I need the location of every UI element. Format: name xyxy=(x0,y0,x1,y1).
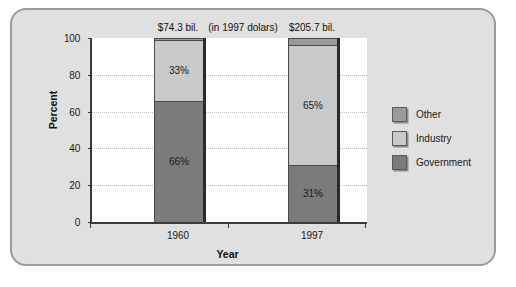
x-axis-title: Year xyxy=(90,248,365,260)
chart-figure-frame: Percent 020406080100 $74.3 bil. (in 1997… xyxy=(10,8,496,266)
y-tick-label: 0 xyxy=(52,217,80,228)
legend-item-government[interactable]: Government xyxy=(392,150,471,174)
x-tick-mark xyxy=(90,222,91,228)
chart-legend: OtherIndustryGovernment xyxy=(392,102,471,174)
y-tick-label: 60 xyxy=(52,106,80,117)
y-tick-label: 20 xyxy=(52,180,80,191)
legend-swatch-other xyxy=(392,107,407,122)
legend-label: Other xyxy=(416,109,441,120)
y-tick-label: 100 xyxy=(52,33,80,44)
bar-segment-label: 33% xyxy=(169,66,189,76)
bar-segment-industry: 65% xyxy=(289,45,337,165)
legend-item-industry[interactable]: Industry xyxy=(392,126,471,150)
x-tick-mark xyxy=(228,222,229,228)
bar-segment-industry: 33% xyxy=(155,40,203,101)
x-tick-mark xyxy=(365,222,366,228)
stacked-bar-1960: 33%66% xyxy=(154,38,206,222)
legend-item-other[interactable]: Other xyxy=(392,102,471,126)
legend-label: Industry xyxy=(416,133,452,144)
legend-swatch-government xyxy=(392,155,407,170)
plot-area: 33%66%65%31% xyxy=(90,38,367,224)
bar-value-label-1997: $205.7 bil. xyxy=(272,22,352,33)
bar-segment-government: 66% xyxy=(155,101,203,222)
bar-segment-label: 66% xyxy=(169,157,189,167)
bar-segment-other xyxy=(289,38,337,45)
bar-segment-label: 65% xyxy=(303,101,323,111)
bar-segment-government: 31% xyxy=(289,165,337,222)
x-tick-label-1997: 1997 xyxy=(282,230,342,241)
legend-swatch-industry xyxy=(392,131,407,146)
legend-label: Government xyxy=(416,157,471,168)
stacked-bar-1997: 65%31% xyxy=(288,38,340,222)
y-tick-label: 40 xyxy=(52,143,80,154)
x-tick-label-1960: 1960 xyxy=(148,230,208,241)
y-tick-label: 80 xyxy=(52,69,80,80)
bar-segment-label: 31% xyxy=(303,189,323,199)
